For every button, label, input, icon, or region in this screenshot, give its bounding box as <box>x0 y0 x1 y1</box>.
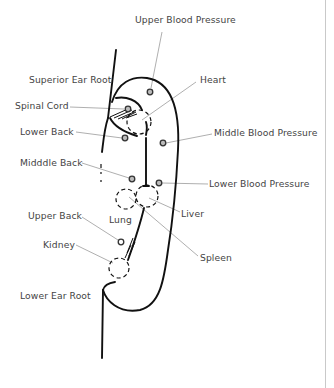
middle-back-dot <box>129 176 135 182</box>
upper-back-dot <box>118 239 124 245</box>
label-middle-blood-pressure: Middle Blood Pressure <box>214 127 317 138</box>
label-spleen: Spleen <box>200 252 232 263</box>
lung-region <box>116 189 136 209</box>
lower-blood-pressure-dot <box>156 180 162 186</box>
middle-blood-pressure-dot <box>160 140 166 146</box>
ear-diagram: Upper Blood Pressure Superior Ear Root H… <box>0 0 334 388</box>
label-heart: Heart <box>200 74 226 85</box>
leader-lines <box>70 32 212 263</box>
label-middle-back: Midddle Back <box>20 157 83 168</box>
label-lower-blood-pressure: Lower Blood Pressure <box>209 178 310 189</box>
label-upper-blood-pressure: Upper Blood Pressure <box>135 14 236 25</box>
upper-blood-pressure-dot <box>147 89 153 95</box>
label-lung: Lung <box>109 214 132 225</box>
label-spinal-cord: Spinal Cord <box>15 100 69 111</box>
right-border <box>325 0 326 388</box>
ear-drawing <box>0 0 334 388</box>
spinal-cord-dot <box>125 106 131 112</box>
label-upper-back: Upper Back <box>28 210 82 221</box>
label-lower-ear-root: Lower Ear Root <box>20 290 91 301</box>
kidney-region <box>109 258 129 278</box>
label-kidney: Kidney <box>43 239 75 250</box>
label-lower-back: Lower Back <box>20 126 74 137</box>
label-liver: Liver <box>181 208 204 219</box>
lower-back-dot <box>122 135 128 141</box>
liver-region <box>136 185 158 207</box>
label-superior-ear-root: Superior Ear Root <box>29 74 111 85</box>
